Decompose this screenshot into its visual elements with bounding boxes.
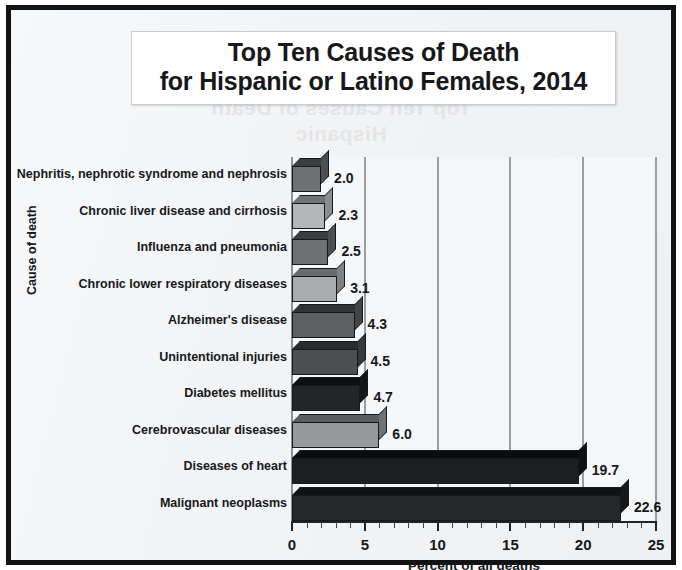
bar-value-label: 6.0 <box>392 426 411 442</box>
tick-minor-23 <box>627 522 628 528</box>
x-axis-title: Percent of all deaths <box>292 558 656 570</box>
bar <box>292 166 329 192</box>
x-tick-label-25: 25 <box>648 536 665 553</box>
x-tick-label-15: 15 <box>502 536 519 553</box>
category-label: Alzheimer's disease <box>168 313 287 327</box>
bar-side <box>325 187 333 221</box>
chart-title-line-2: for Hispanic or Latino Females, 2014 <box>142 67 605 96</box>
ghost-bleed-line-2: Hispanic <box>11 122 671 146</box>
category-label: Nephritis, nephrotic syndrome and nephro… <box>17 167 287 181</box>
bar <box>292 422 387 448</box>
bar-top <box>292 450 587 458</box>
tick-minor-8 <box>408 522 409 528</box>
tick-major-25 <box>655 522 657 531</box>
bar-value-label: 2.0 <box>334 170 353 186</box>
tick-major-5 <box>364 522 366 531</box>
tick-major-20 <box>582 522 584 531</box>
bar-top <box>292 414 387 422</box>
bar-value-label: 22.6 <box>634 499 661 515</box>
bar-face <box>292 203 325 229</box>
bar-value-label: 19.7 <box>592 462 619 478</box>
category-label: Diseases of heart <box>183 459 287 473</box>
bar-side <box>379 406 387 440</box>
category-label: Chronic lower respiratory diseases <box>79 277 287 291</box>
bar-face <box>292 276 337 302</box>
bar-side <box>579 442 587 476</box>
bar <box>292 203 333 229</box>
bar-value-label: 4.5 <box>371 353 390 369</box>
tick-minor-14 <box>496 522 497 528</box>
bar-face <box>292 166 321 192</box>
category-label: Influenza and pneumonia <box>137 240 287 254</box>
bar <box>292 239 336 265</box>
bar-top <box>292 341 366 349</box>
tick-minor-2 <box>321 522 322 528</box>
tick-major-10 <box>437 522 439 531</box>
bar-side <box>355 296 363 330</box>
x-axis-ticks <box>292 522 656 531</box>
bar <box>292 495 629 521</box>
tick-minor-7 <box>394 522 395 528</box>
bar-face <box>292 385 360 411</box>
category-label: Chronic liver disease and cirrhosis <box>79 204 287 218</box>
bar-face <box>292 495 621 521</box>
tick-minor-22 <box>612 522 613 528</box>
bar <box>292 458 587 484</box>
tick-minor-4 <box>350 522 351 528</box>
chart-plate: Top Ten Causes of Death Hispanic Top Ten… <box>11 10 671 560</box>
bar-top <box>292 487 629 495</box>
x-tick-label-20: 20 <box>575 536 592 553</box>
bar <box>292 385 368 411</box>
tick-minor-24 <box>641 522 642 528</box>
tick-minor-11 <box>452 522 453 528</box>
bar-value-label: 2.3 <box>338 207 357 223</box>
x-tick-label-10: 10 <box>429 536 446 553</box>
bar <box>292 349 366 375</box>
tick-minor-12 <box>467 522 468 528</box>
bar <box>292 276 345 302</box>
bar-face <box>292 239 328 265</box>
x-tick-label-0: 0 <box>288 536 296 553</box>
bar-face <box>292 422 379 448</box>
y-axis-title: Cause of death <box>25 205 39 295</box>
category-label-column: Nephritis, nephrotic syndrome and nephro… <box>21 157 287 522</box>
bar-value-label: 4.7 <box>373 389 392 405</box>
bar-face <box>292 349 358 375</box>
bar-face <box>292 312 355 338</box>
tick-minor-18 <box>554 522 555 528</box>
chart-title: Top Ten Causes of Death for Hispanic or … <box>131 31 616 105</box>
bar-side <box>360 369 368 403</box>
tick-minor-13 <box>481 522 482 528</box>
tick-minor-16 <box>525 522 526 528</box>
chart-title-line-1: Top Ten Causes of Death <box>142 38 605 67</box>
bar-value-label: 3.1 <box>350 280 369 296</box>
bar-side <box>337 260 345 294</box>
tick-minor-1 <box>307 522 308 528</box>
tick-minor-21 <box>598 522 599 528</box>
category-label: Unintentional injuries <box>159 350 287 364</box>
tick-major-15 <box>509 522 511 531</box>
tick-major-0 <box>291 522 293 531</box>
tick-minor-6 <box>379 522 380 528</box>
bar-side <box>321 150 329 184</box>
x-tick-label-5: 5 <box>361 536 369 553</box>
bar-top <box>292 377 368 385</box>
bar-top <box>292 304 363 312</box>
category-label: Diabetes mellitus <box>184 386 287 400</box>
tick-minor-9 <box>423 522 424 528</box>
category-label: Cerebrovascular diseases <box>132 423 287 437</box>
chart-scan: Top Ten Causes of Death Hispanic Top Ten… <box>0 0 682 570</box>
bar <box>292 312 363 338</box>
bar-value-label: 2.5 <box>341 243 360 259</box>
chart-frame: Top Ten Causes of Death Hispanic Top Ten… <box>6 5 676 565</box>
tick-minor-3 <box>336 522 337 528</box>
category-label: Malignant neoplasms <box>160 496 287 510</box>
tick-minor-19 <box>569 522 570 528</box>
bar-side <box>328 223 336 257</box>
bar-value-label: 4.3 <box>368 316 387 332</box>
bar-side <box>621 479 629 513</box>
tick-minor-17 <box>540 522 541 528</box>
bar-face <box>292 458 579 484</box>
